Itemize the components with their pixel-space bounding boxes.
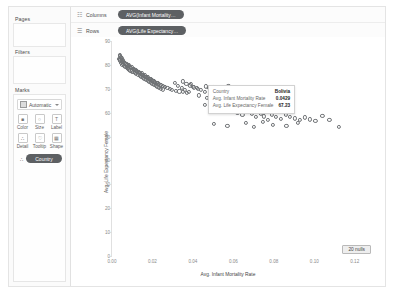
columns-pill-infant-mortality[interactable]: AVG(Infant Mortality… (118, 10, 184, 19)
tooltip-icon: ♡ (35, 133, 45, 143)
marks-button-color[interactable]: ■ Color (14, 114, 31, 130)
marks-button-detail[interactable]: ∴ Detail (14, 133, 31, 149)
scatter-point[interactable] (274, 115, 278, 119)
scatter-point[interactable] (279, 117, 283, 121)
marks-button-size[interactable]: ○ Size (31, 114, 48, 130)
scatter-point[interactable] (212, 122, 216, 126)
scatter-point[interactable] (225, 123, 229, 127)
x-axis-tick-label: 0.04 (188, 259, 197, 264)
marks-button-grid: ■ Color ○ Size T Label ∴ Detail ♡ Tool (14, 114, 65, 149)
y-axis-tick-mark (110, 137, 112, 138)
scatter-point[interactable] (252, 124, 256, 128)
columns-shelf-label: Columns (86, 12, 114, 18)
marks-card: Automatic ■ Color ○ Size T Label ∴ (13, 94, 66, 282)
left-shelf-panel: Pages Filters Marks Automatic ■ Color ○ … (9, 7, 71, 286)
shape-icon: ▦ (52, 133, 62, 143)
scatter-point[interactable] (243, 121, 247, 125)
detail-icon: ∴ (18, 133, 28, 143)
x-axis-tick-label: 0.08 (269, 259, 278, 264)
rows-pill-life-expectancy[interactable]: AVG(Life Expectancy… (118, 26, 186, 35)
marks-pill-country[interactable]: Country (26, 154, 62, 163)
mark-type-value: Automatic (29, 102, 53, 108)
pages-shelf-label: Pages (15, 16, 30, 22)
x-axis-tick-label: 0.06 (229, 259, 238, 264)
tooltip-value-life-expectancy: 67.23 (278, 103, 290, 110)
marks-button-detail-label: Detail (17, 144, 29, 149)
y-axis-tick-mark (110, 113, 112, 114)
null-indicator-badge[interactable]: 20 nulls (342, 245, 371, 254)
scatter-point[interactable] (336, 125, 340, 129)
pages-shelf-dropzone[interactable] (13, 23, 66, 47)
marks-button-tooltip-label: Tooltip (33, 144, 46, 149)
scatter-point[interactable] (261, 120, 265, 124)
y-axis-tick-mark (110, 256, 112, 257)
marks-button-shape-label: Shape (50, 144, 63, 149)
marks-button-shape[interactable]: ▦ Shape (48, 133, 65, 149)
scatter-point[interactable] (187, 90, 191, 94)
x-axis-tick-label: 0.02 (148, 259, 157, 264)
marks-card-label: Marks (15, 87, 30, 93)
scatter-point[interactable] (266, 118, 270, 122)
marks-button-label[interactable]: T Label (48, 114, 65, 130)
scatter-point[interactable] (197, 93, 201, 97)
y-axis-tick-mark (110, 41, 112, 42)
square-mark-icon (20, 101, 27, 108)
scatter-point[interactable] (293, 116, 297, 120)
tooltip-row: Avg. Infant Mortality Rate 0.0429 (213, 96, 290, 103)
x-axis-title: Avg. Infant Mortality Rate (71, 272, 385, 277)
scatter-point[interactable] (271, 123, 275, 127)
rows-shelf-label: Rows (86, 28, 114, 34)
scatter-point[interactable] (203, 90, 207, 94)
columns-shelf[interactable]: ☷ Columns AVG(Infant Mortality… (71, 7, 385, 23)
color-icon: ■ (18, 114, 28, 124)
scatter-point[interactable] (284, 124, 288, 128)
tooltip-value-country: Bolivia (275, 89, 290, 96)
scatter-point[interactable] (308, 117, 312, 121)
mark-type-dropdown[interactable]: Automatic (17, 99, 62, 110)
label-icon: T (52, 114, 62, 124)
scatter-plot-area[interactable]: 01020304050607080900.000.020.040.060.080… (111, 41, 375, 256)
chevron-down-icon (55, 104, 59, 106)
y-axis-tick-mark (110, 65, 112, 66)
marks-detail-pill-row: ∴ Country (18, 154, 62, 163)
y-axis-tick-mark (110, 208, 112, 209)
worksheet-main: ☷ Columns AVG(Infant Mortality… ☰ Rows A… (71, 7, 385, 286)
y-axis-tick-mark (110, 184, 112, 185)
y-axis-tick-mark (110, 232, 112, 233)
x-axis-tick-label: 0.10 (310, 259, 319, 264)
marks-button-tooltip[interactable]: ♡ Tooltip (31, 133, 48, 149)
marks-button-label-label: Label (51, 125, 62, 130)
scatter-point[interactable] (203, 102, 207, 106)
detail-pill-icon: ∴ (18, 156, 24, 162)
tooltip-key-life-expectancy: Avg. Life Expectancy Female (213, 103, 274, 110)
marks-button-color-label: Color (17, 125, 28, 130)
visualization-canvas[interactable]: Avg. Life Expectancy Female 010203040506… (71, 37, 385, 286)
y-axis-tick-mark (110, 89, 112, 90)
rows-icon: ☰ (76, 28, 82, 34)
scatter-point[interactable] (296, 121, 300, 125)
y-axis-tick-mark (110, 160, 112, 161)
filters-shelf-dropzone[interactable] (13, 56, 66, 84)
tooltip-row: Country Bolivia (213, 89, 290, 96)
marks-button-size-label: Size (35, 125, 44, 130)
mark-tooltip: Country Bolivia Avg. Infant Mortality Ra… (208, 85, 295, 113)
size-icon: ○ (35, 114, 45, 124)
filters-shelf-label: Filters (15, 49, 30, 55)
tooltip-key-country: Country (213, 89, 270, 96)
scatter-point[interactable] (320, 114, 324, 118)
tooltip-value-infant-mortality: 0.0429 (276, 96, 290, 103)
x-axis-tick-label: 0.00 (108, 259, 117, 264)
scatter-point[interactable] (303, 115, 307, 119)
scatter-point[interactable] (254, 115, 258, 119)
x-axis-tick-label: 0.12 (350, 259, 359, 264)
scatter-point[interactable] (327, 118, 331, 122)
columns-icon: ☷ (76, 12, 82, 18)
tooltip-row: Avg. Life Expectancy Female 67.23 (213, 103, 290, 110)
scatter-point[interactable] (288, 115, 292, 119)
tooltip-key-infant-mortality: Avg. Infant Mortality Rate (213, 96, 271, 103)
tableau-worksheet: Pages Filters Marks Automatic ■ Color ○ … (8, 6, 386, 287)
scatter-point[interactable] (313, 119, 317, 123)
